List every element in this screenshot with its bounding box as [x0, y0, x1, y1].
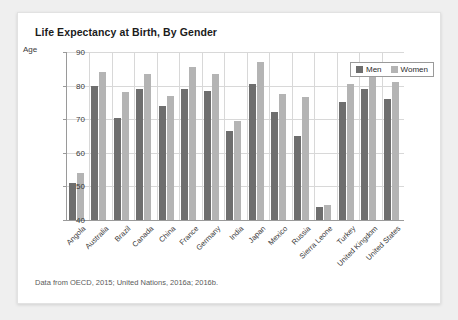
page-title: Life Expectancy at Birth, By Gender	[35, 26, 217, 38]
legend-item-women[interactable]: Women	[391, 65, 428, 74]
y-axis-title: Age	[23, 45, 37, 54]
bar-group	[89, 52, 111, 220]
bar-men[interactable]	[361, 89, 368, 220]
x-tick-label: India	[227, 224, 245, 242]
bar-men[interactable]	[226, 131, 233, 220]
bar-women[interactable]	[99, 72, 106, 220]
bar-women[interactable]	[234, 121, 241, 220]
plot-area-wrapper: 405060708090	[52, 52, 403, 220]
bar-women[interactable]	[189, 67, 196, 220]
bar-men[interactable]	[294, 136, 301, 220]
legend-swatch-women-icon	[391, 66, 398, 73]
plot-area	[66, 52, 404, 221]
bar-men[interactable]	[136, 89, 143, 220]
bar-group	[359, 52, 381, 220]
page-background: Life Expectancy at Birth, By Gender Age …	[0, 0, 458, 320]
bar-women[interactable]	[257, 62, 264, 220]
x-axis-labels: AngolaAustraliaBrazilCanadaChinaFranceGe…	[66, 224, 403, 284]
bar-women[interactable]	[279, 94, 286, 220]
bar-group	[134, 52, 156, 220]
legend-item-men[interactable]: Men	[356, 65, 382, 74]
legend-swatch-men-icon	[356, 66, 363, 73]
bar-women[interactable]	[392, 82, 399, 220]
x-tick-label: Canada	[130, 224, 155, 249]
bar-men[interactable]	[316, 207, 323, 220]
bar-group	[157, 52, 179, 220]
bar-group	[314, 52, 336, 220]
bar-group	[67, 52, 89, 220]
y-tick-mark	[63, 52, 66, 53]
bar-men[interactable]	[91, 86, 98, 220]
source-note: Data from OECD, 2015; United Nations, 20…	[35, 278, 218, 287]
bar-group	[247, 52, 269, 220]
bar-men[interactable]	[204, 91, 211, 220]
bar-group	[382, 52, 404, 220]
bar-group	[112, 52, 134, 220]
bar-group	[269, 52, 291, 220]
bar-men[interactable]	[181, 89, 188, 220]
x-tick-label: China	[157, 224, 177, 244]
bar-group	[179, 52, 201, 220]
legend-label-men: Men	[366, 65, 382, 74]
bar-men[interactable]	[339, 102, 346, 220]
y-tick-mark	[63, 153, 66, 154]
legend-label-women: Women	[401, 65, 428, 74]
bar-women[interactable]	[77, 173, 84, 220]
bar-women[interactable]	[144, 74, 151, 220]
chart-card: Life Expectancy at Birth, By Gender Age …	[17, 12, 441, 304]
y-tick-mark	[63, 86, 66, 87]
bar-women[interactable]	[369, 76, 376, 220]
bar-men[interactable]	[271, 112, 278, 220]
bar-women[interactable]	[347, 84, 354, 220]
bar-women[interactable]	[302, 97, 309, 220]
bar-women[interactable]	[212, 74, 219, 220]
bar-men[interactable]	[159, 106, 166, 220]
bar-group	[224, 52, 246, 220]
x-tick-label: Japan	[247, 224, 268, 245]
y-tick-mark	[63, 119, 66, 120]
bar-men[interactable]	[384, 99, 391, 220]
bar-women[interactable]	[122, 92, 129, 220]
y-tick-mark	[63, 220, 66, 221]
y-tick-mark	[63, 186, 66, 187]
bar-women[interactable]	[167, 96, 174, 220]
bar-group	[337, 52, 359, 220]
bar-group	[292, 52, 314, 220]
x-tick-label: Brazil	[113, 224, 133, 244]
x-tick-label: Mexico	[267, 224, 290, 247]
bar-men[interactable]	[249, 84, 256, 220]
x-tick-label: Australia	[83, 224, 110, 251]
bar-men[interactable]	[114, 118, 121, 220]
bar-group	[202, 52, 224, 220]
chart-legend[interactable]: Men Women	[350, 62, 434, 77]
bar-women[interactable]	[324, 205, 331, 220]
